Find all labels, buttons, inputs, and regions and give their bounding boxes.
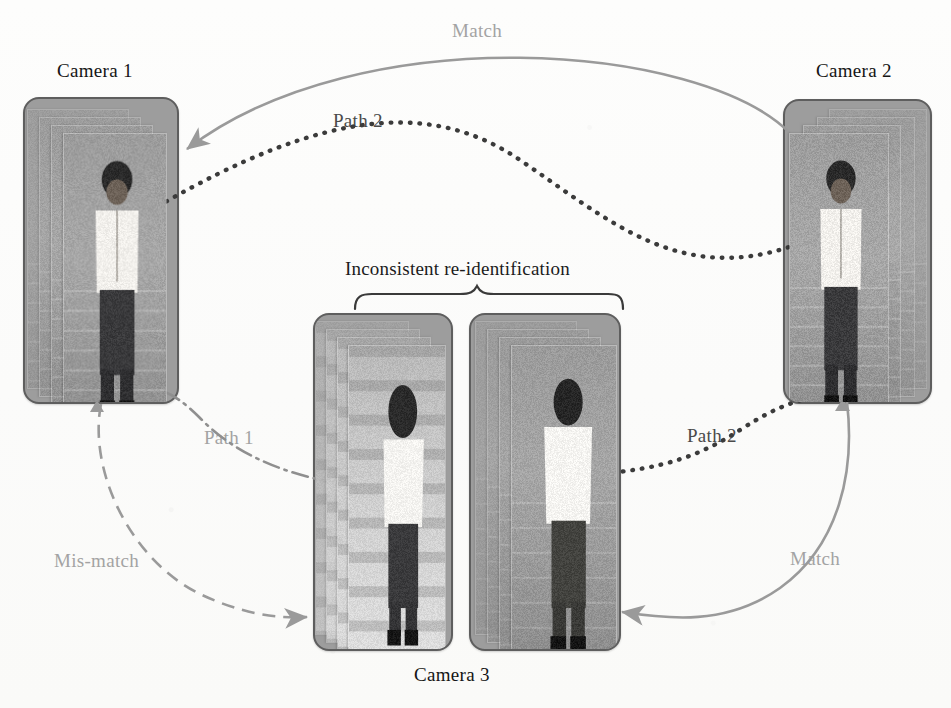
mis-match-label: Mis-match (54, 550, 139, 572)
camera-2-frame-stack (785, 101, 930, 402)
path2-bottom-label: Path 2 (687, 425, 737, 447)
camera-3-panel-b[interactable] (469, 313, 621, 651)
match-top-label: Match (452, 20, 502, 42)
video-frame (348, 345, 446, 651)
camera-3-panel-a[interactable] (313, 313, 453, 651)
camera-3b-frame-stack (471, 315, 619, 649)
video-frame (63, 133, 167, 404)
camera-3-label: Camera 3 (414, 664, 490, 686)
mis-match-arrow (99, 404, 307, 617)
inconsistent-reid-label: Inconsistent re-identification (345, 258, 570, 280)
path1-label: Path 1 (204, 427, 254, 449)
camera-1-frame-stack (25, 99, 177, 402)
camera-1-label: Camera 1 (57, 60, 133, 82)
camera-3a-frame-stack (315, 315, 451, 649)
inconsistent-reid-brace (355, 286, 623, 309)
match-bottom-label: Match (790, 548, 840, 570)
camera-1-panel[interactable] (23, 97, 179, 404)
figure-canvas: Camera 1 Camera 2 Inconsistent re-identi… (0, 0, 951, 708)
path2-top-label: Path 2 (333, 110, 383, 132)
video-frame (789, 133, 889, 404)
camera-2-label: Camera 2 (816, 60, 892, 82)
video-frame (511, 345, 617, 651)
path2-top-line (125, 123, 795, 258)
camera-2-panel[interactable] (783, 99, 932, 404)
match-top-arrow (187, 58, 790, 149)
